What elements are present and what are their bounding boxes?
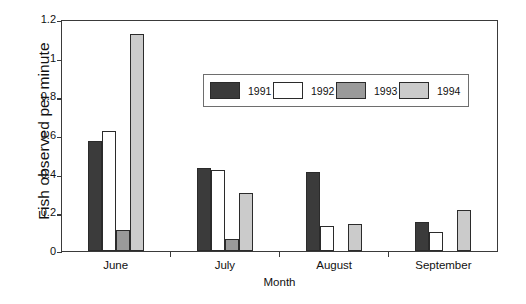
x-axis-category-label: August	[280, 256, 389, 274]
legend-label-1993: 1993	[374, 85, 397, 97]
legend-item-1992: 1992	[273, 82, 336, 99]
y-axis-tick-label: 1.2	[22, 14, 56, 25]
legend-swatch-1992	[273, 82, 303, 99]
legend: 1991199219931994	[203, 74, 469, 107]
y-axis-tick-mark	[57, 60, 62, 61]
bar-group	[171, 21, 280, 251]
legend-item-1991: 1991	[210, 82, 273, 99]
bar-group	[388, 21, 497, 251]
bar-1991-june	[88, 141, 102, 251]
bar-group-bars	[280, 21, 389, 251]
bar-1992-july	[211, 170, 225, 251]
y-axis-tick-label: 0.2	[22, 207, 56, 218]
y-axis-tick-label: 1	[22, 53, 56, 64]
y-axis-tick-mark	[57, 21, 62, 22]
legend-label-1991: 1991	[248, 85, 271, 97]
bar-1992-august	[320, 226, 334, 251]
y-axis-tick-mark	[57, 98, 62, 99]
bar-group-bars	[171, 21, 280, 251]
legend-swatch-1993	[336, 82, 366, 99]
x-axis-category-label: June	[61, 256, 170, 274]
y-axis-tick-label: 0	[22, 246, 56, 257]
x-axis-title: Month	[61, 276, 498, 288]
bar-group-bars	[62, 21, 171, 251]
y-axis-tick-mark	[57, 176, 62, 177]
bar-group	[62, 21, 171, 251]
bar-chart: Fish observed per minute 00.20.40.60.811…	[0, 0, 526, 304]
bar-1991-july	[197, 168, 211, 251]
y-axis-tick-mark	[57, 137, 62, 138]
bar-group	[280, 21, 389, 251]
bar-1994-june	[130, 34, 144, 251]
y-axis-tick-mark	[57, 214, 62, 215]
bar-1994-august	[348, 224, 362, 251]
y-axis-tick-label: 0.4	[22, 169, 56, 180]
legend-item-1994: 1994	[399, 82, 462, 99]
legend-swatch-1991	[210, 82, 240, 99]
bar-1992-june	[102, 131, 116, 251]
bar-1993-june	[116, 230, 130, 251]
legend-label-1994: 1994	[437, 85, 460, 97]
bar-1991-august	[306, 172, 320, 251]
y-axis-tick-label: 0.6	[22, 130, 56, 141]
bar-1991-september	[415, 222, 429, 251]
x-axis-category-labels: JuneJulyAugustSeptember	[61, 256, 498, 274]
legend-label-1992: 1992	[311, 85, 334, 97]
bar-1994-september	[457, 210, 471, 251]
y-axis-tick-mark	[57, 252, 62, 253]
bar-1994-july	[239, 193, 253, 251]
bar-groups	[62, 21, 497, 251]
plot-area	[61, 20, 498, 252]
bar-1992-september	[429, 232, 443, 251]
legend-swatch-1994	[399, 82, 429, 99]
y-axis-tick-labels: 00.20.40.60.811.2	[20, 0, 56, 304]
bar-group-bars	[388, 21, 497, 251]
bar-1993-july	[225, 239, 239, 251]
x-axis-category-label: September	[389, 256, 498, 274]
y-axis-tick-label: 0.8	[22, 91, 56, 102]
legend-item-1993: 1993	[336, 82, 399, 99]
x-axis-category-label: July	[170, 256, 279, 274]
